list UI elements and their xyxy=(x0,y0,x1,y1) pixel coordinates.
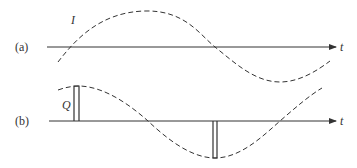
charge-label-Q: Q xyxy=(62,98,71,112)
current-label-I: I xyxy=(70,13,76,27)
panel-b: (b) t Q xyxy=(15,86,344,158)
current-curve-dashed xyxy=(58,11,330,82)
panel-a-label: (a) xyxy=(15,40,28,54)
axis-label-t-b: t xyxy=(340,114,344,128)
charge-curve-dashed xyxy=(58,86,322,158)
negative-charge-pulse xyxy=(213,121,217,158)
diagram-canvas: (a) t I (b) t Q xyxy=(0,0,357,168)
panel-a: (a) t I xyxy=(15,11,344,82)
positive-charge-pulse xyxy=(74,86,79,121)
panel-b-label: (b) xyxy=(15,114,29,128)
axis-label-t-a: t xyxy=(340,40,344,54)
